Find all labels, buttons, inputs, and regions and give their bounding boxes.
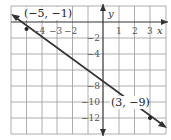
point-a-label: (−5, −1)	[24, 7, 72, 20]
y-axis-arrow-up-icon	[100, 4, 106, 11]
x-tick: 2	[132, 26, 138, 36]
x-tick: −2	[64, 26, 77, 36]
y-axis-arrow-down-icon	[100, 129, 106, 136]
y-tick: −4	[87, 49, 101, 59]
y-axis-label: y	[107, 8, 114, 19]
x-axis-label: x	[157, 25, 163, 36]
x-tick: 1	[116, 26, 122, 36]
x-tick: −3	[49, 26, 63, 36]
x-tick: 3	[147, 26, 153, 36]
y-tick: −12	[81, 113, 100, 123]
x-tick: −4	[32, 26, 46, 36]
point-b-label: (3, −9)	[111, 96, 150, 109]
y-tick: −2	[87, 33, 100, 43]
point-a	[25, 27, 29, 31]
point-b	[148, 116, 152, 120]
coordinate-plane: (−5, −1) y x −4 −3 −2 1 2 3 −2 −4 −8 −10…	[0, 0, 171, 140]
y-tick: −10	[81, 97, 100, 107]
y-tick: −8	[87, 81, 101, 91]
